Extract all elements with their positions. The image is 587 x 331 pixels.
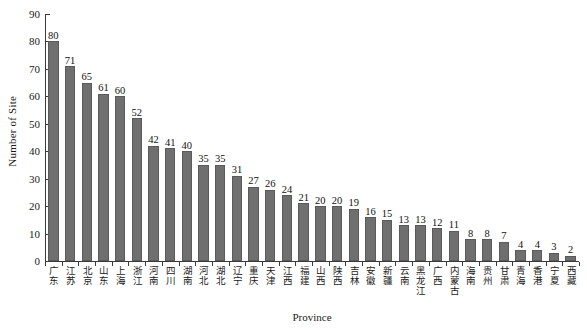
bar-value-label: 16 (365, 207, 376, 218)
y-axis-tick-label: 30 (29, 173, 40, 184)
x-axis-category-label: 河南 (149, 266, 159, 286)
y-axis-tick-label: 20 (29, 201, 40, 212)
y-axis-tick-label: 40 (29, 146, 40, 157)
bar: 13 (399, 225, 409, 261)
x-axis-category-label: 天津 (265, 266, 275, 286)
bar-value-label: 80 (48, 31, 59, 42)
x-axis-tick (546, 262, 547, 266)
x-axis-category-label: 吉林 (349, 266, 359, 286)
y-axis-tick-label: 80 (29, 36, 40, 47)
x-axis-category-label: 甘肃 (499, 266, 509, 286)
x-axis-tick (512, 262, 513, 266)
y-axis-line (45, 14, 46, 262)
x-axis-tick (279, 262, 280, 266)
x-axis-category-label: 安徽 (366, 266, 376, 286)
bar-value-label: 19 (348, 198, 359, 209)
bar: 52 (132, 118, 142, 261)
bar: 8 (482, 239, 492, 261)
bar: 41 (165, 148, 175, 261)
bar: 31 (232, 176, 242, 261)
bar: 61 (98, 94, 108, 261)
y-axis-tick-label: 90 (29, 9, 40, 20)
bar-value-label: 24 (282, 185, 293, 196)
bar: 12 (432, 228, 442, 261)
bar: 8 (465, 239, 475, 261)
x-axis-category-label: 辽宁 (232, 266, 242, 286)
x-axis-category-label: 福建 (299, 266, 309, 286)
x-axis-category-label: 上海 (115, 266, 125, 286)
bar: 35 (215, 165, 225, 261)
x-axis-category-label: 山西 (316, 266, 326, 286)
bar: 2 (565, 256, 575, 261)
bar-value-label: 15 (382, 209, 393, 220)
x-axis-tick (62, 262, 63, 266)
bar-value-label: 21 (298, 193, 309, 204)
bar: 16 (365, 217, 375, 261)
x-axis-title: Province (45, 311, 579, 323)
bar: 20 (332, 206, 342, 261)
bar-value-label: 27 (248, 176, 259, 187)
bar: 19 (349, 209, 359, 261)
x-axis-tick (128, 262, 129, 266)
bar-value-label: 71 (65, 56, 76, 67)
x-axis-tick (412, 262, 413, 266)
bar-value-label: 65 (81, 72, 92, 83)
bar-value-label: 31 (232, 165, 243, 176)
bar-value-label: 3 (551, 242, 556, 253)
bar-value-label: 11 (449, 220, 459, 231)
bar: 35 (198, 165, 208, 261)
bar-value-label: 8 (485, 229, 490, 240)
x-axis-tick (162, 262, 163, 266)
y-axis-tick (46, 261, 50, 262)
x-axis-category-label: 湖南 (182, 266, 192, 286)
y-axis-tick-label: 0 (35, 256, 41, 267)
bar-value-label: 13 (415, 215, 426, 226)
x-axis-category-label: 湖北 (215, 266, 225, 286)
bar-value-label: 60 (115, 86, 126, 97)
bar: 3 (549, 253, 559, 261)
bar-value-label: 20 (315, 196, 326, 207)
bar: 20 (315, 206, 325, 261)
y-axis-tick-label: 50 (29, 118, 40, 129)
x-axis-category-label: 内蒙古 (449, 266, 459, 296)
plot-area: 0102030405060708090 80716561605242414035… (45, 14, 579, 262)
bar: 65 (82, 83, 92, 261)
x-axis-tick (195, 262, 196, 266)
bar: 4 (515, 250, 525, 261)
bar: 42 (148, 146, 158, 261)
y-axis-tick-label: 10 (29, 228, 40, 239)
x-axis-category-label: 香港 (532, 266, 542, 286)
y-axis-tick (46, 14, 50, 15)
x-axis-tick (145, 262, 146, 266)
x-axis-category-label: 四川 (165, 266, 175, 286)
bar: 7 (499, 242, 509, 261)
x-axis-tick (45, 262, 46, 266)
bar: 27 (248, 187, 258, 261)
x-axis-tick (112, 262, 113, 266)
x-axis-tick (312, 262, 313, 266)
bar: 80 (48, 41, 58, 261)
bar-value-label: 61 (98, 83, 109, 94)
x-axis-tick (245, 262, 246, 266)
x-axis-category-label: 广东 (49, 266, 59, 286)
x-axis-category-label: 浙江 (132, 266, 142, 286)
bar: 13 (415, 225, 425, 261)
x-axis-tick (295, 262, 296, 266)
x-axis-tick (78, 262, 79, 266)
bar-value-label: 52 (132, 108, 143, 119)
x-axis-category-label: 河北 (199, 266, 209, 286)
x-axis-category-label: 黑龙江 (416, 266, 426, 296)
x-axis-tick (362, 262, 363, 266)
x-axis-category-label: 宁夏 (549, 266, 559, 286)
bar-value-label: 42 (148, 135, 159, 146)
bar: 11 (449, 231, 459, 261)
bar: 26 (265, 190, 275, 261)
bar-value-label: 20 (332, 196, 343, 207)
x-axis-tick (345, 262, 346, 266)
y-axis-title-label: Number of Site (6, 96, 18, 167)
x-axis-tick (479, 262, 480, 266)
x-axis-tick (229, 262, 230, 266)
bar-chart: Number of Site 0102030405060708090 80716… (0, 0, 587, 331)
x-axis-tick (496, 262, 497, 266)
bar-value-label: 13 (399, 215, 410, 226)
